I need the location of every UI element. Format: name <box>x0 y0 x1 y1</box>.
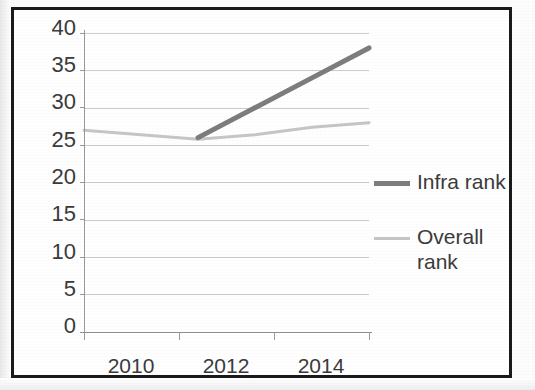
y-axis-label-10: 10 <box>36 241 76 263</box>
y-axis-label-35: 35 <box>36 54 76 76</box>
chart-series-layer <box>84 33 369 332</box>
legend-line-swatch-icon <box>374 181 410 186</box>
legend-line-swatch-icon <box>374 237 410 240</box>
x-axis-label-2012: 2012 <box>176 355 276 376</box>
y-axis-label-0: 0 <box>36 315 76 337</box>
y-axis-line <box>84 30 85 335</box>
x-axis-tick-1 <box>179 332 180 340</box>
legend-item-infra-rank: Infra rank <box>374 170 506 195</box>
scan-edge-shadow-left <box>0 0 11 390</box>
x-axis-label-2010: 2010 <box>81 355 181 376</box>
x-axis-tick-2 <box>274 332 275 340</box>
legend-label-overall-rank: Overall rank <box>415 225 484 275</box>
y-axis-label-40: 40 <box>36 17 76 39</box>
y-axis-label-20: 20 <box>36 166 76 188</box>
x-axis-tick-0 <box>84 332 85 340</box>
x-axis-tick-3 <box>369 332 370 340</box>
y-axis-label-25: 25 <box>36 129 76 151</box>
legend-label-infra-rank: Infra rank <box>415 170 506 195</box>
y-axis-labels: 40 35 30 25 20 15 10 5 0 <box>28 10 76 350</box>
x-axis-line <box>81 332 372 333</box>
y-axis-label-15: 15 <box>36 203 76 225</box>
scanned-page: 40 35 30 25 20 15 10 5 0 <box>0 0 535 390</box>
chart-figure-frame: 40 35 30 25 20 15 10 5 0 <box>11 7 512 378</box>
scan-edge-shadow-bottom <box>0 378 535 390</box>
legend-item-overall-rank: Overall rank <box>374 225 484 275</box>
y-axis-label-5: 5 <box>36 278 76 300</box>
plot-area <box>84 33 369 332</box>
y-axis-label-30: 30 <box>36 91 76 113</box>
x-axis-label-2014: 2014 <box>271 355 371 376</box>
